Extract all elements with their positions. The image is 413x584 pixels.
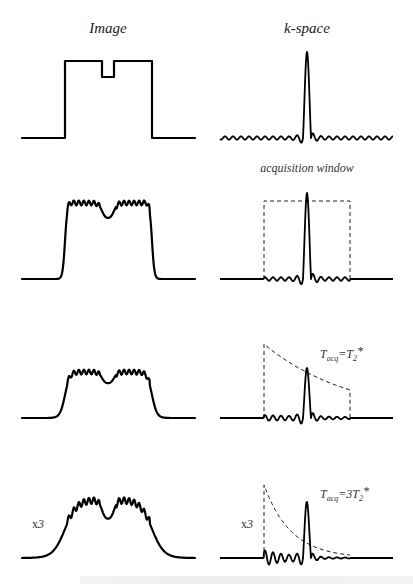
image-profile-t2star-3	[22, 497, 195, 558]
acquisition-window-rect	[264, 201, 350, 279]
row-t2star-3: Tacq=3T2* x3 x3	[22, 484, 393, 565]
image-profile-t2star-1	[22, 370, 195, 418]
kspace-scale-x3-label: x3	[241, 517, 253, 531]
kspace-signal-truncated	[220, 193, 393, 284]
row-t2star-1: Tacq=T2*	[22, 344, 393, 424]
kspace-signal-t2star-3	[220, 502, 393, 565]
tacq-equals-3t2star-label: Tacq=3T2*	[320, 484, 369, 503]
mri-figure: Image k-space acquisition window Tacq=T2…	[0, 0, 413, 584]
row-truncated: acquisition window	[22, 161, 393, 284]
image-profile-truncated	[22, 201, 195, 280]
acquisition-window-label: acquisition window	[260, 161, 354, 175]
row-ideal	[22, 52, 393, 143]
tacq-equals-t2star-label: Tacq=T2*	[320, 344, 363, 363]
kspace-signal-t2star-1	[220, 368, 393, 424]
image-scale-x3-label: x3	[32, 517, 44, 531]
cropped-caption-strip	[80, 576, 413, 584]
column-title-image: Image	[88, 20, 127, 36]
image-profile-ideal	[22, 61, 195, 138]
kspace-signal-ideal	[220, 52, 393, 143]
column-title-kspace: k-space	[284, 20, 330, 36]
